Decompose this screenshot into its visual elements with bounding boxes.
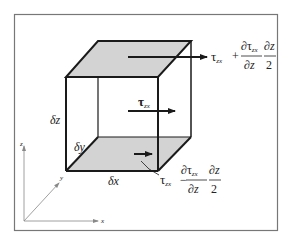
- bottom-half-den: 2: [211, 182, 217, 196]
- bottom-partial-num: ∂τzx: [181, 163, 198, 178]
- top-face: [66, 41, 191, 77]
- dz-label: δz: [50, 113, 61, 127]
- top-partial-den: ∂z: [244, 58, 255, 72]
- dy-label: δy: [74, 140, 86, 154]
- bottom-partial-den: ∂z: [188, 182, 199, 196]
- top-partial-num2: ∂z: [264, 39, 275, 53]
- top-tau: τzx: [211, 49, 223, 65]
- y-axis: [24, 183, 59, 221]
- top-plus: +: [232, 49, 239, 63]
- bottom-tau: τzx: [160, 172, 172, 188]
- x-axis-label: x: [100, 217, 105, 225]
- middle-tau: τzx: [138, 94, 151, 110]
- shear-stress-cube-diagram: τzx + ∂τzx ∂z ∂z 2 τzx δz δy δx τzx − ∂τ…: [0, 0, 290, 241]
- dx-label: δx: [108, 174, 120, 188]
- top-half-den: 2: [266, 58, 272, 72]
- y-axis-label: y: [59, 174, 64, 182]
- bottom-partial-num2: ∂z: [209, 163, 220, 177]
- top-partial-num: ∂τzx: [241, 39, 258, 54]
- z-axis-label: z: [19, 140, 23, 148]
